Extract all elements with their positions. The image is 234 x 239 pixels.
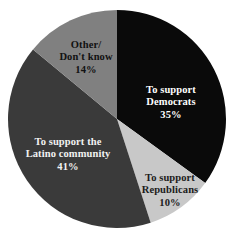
pie-slice-value-republicans: 10%: [128, 197, 212, 209]
pie-slice-label-democrats-line2: Democrats: [132, 96, 210, 108]
pie-slice-label-latino-community-line2: Latino community: [16, 148, 120, 160]
pie-slice-label-democrats: To support Democrats 35%: [132, 84, 210, 121]
pie-slice-label-other-dont-know-line1: Other/: [48, 39, 124, 51]
pie-slice-label-other-dont-know: Other/ Don't know 14%: [48, 39, 124, 76]
pie-slice-value-democrats: 35%: [132, 109, 210, 121]
pie-slice-label-republicans-line1: To support: [128, 172, 212, 184]
pie-slice-label-latino-community: To support the Latino community 41%: [16, 136, 120, 173]
pie-slice-label-latino-community-line1: To support the: [16, 136, 120, 148]
pie-slice-value-latino-community: 41%: [16, 161, 120, 173]
pie-slice-label-other-dont-know-line2: Don't know: [48, 51, 124, 63]
pie-slice-label-democrats-line1: To support: [132, 84, 210, 96]
pie-chart: To support Democrats 35% To support Repu…: [0, 0, 234, 239]
pie-slice-value-other-dont-know: 14%: [48, 64, 124, 76]
pie-slice-label-republicans: To support Republicans 10%: [128, 172, 212, 209]
pie-slice-label-republicans-line2: Republicans: [128, 184, 212, 196]
